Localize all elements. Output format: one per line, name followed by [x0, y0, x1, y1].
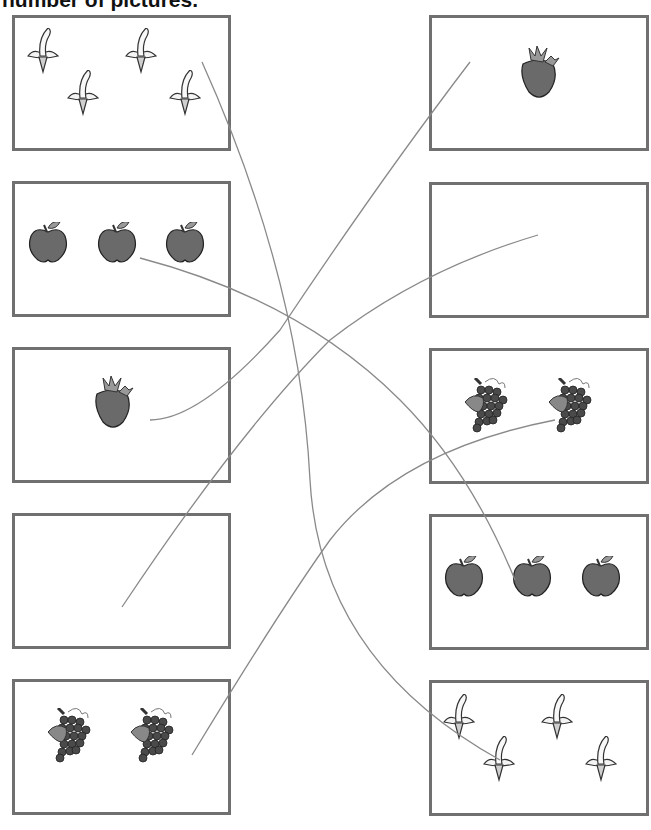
banana-icon [166, 70, 206, 118]
banana-icon [122, 28, 162, 76]
strawberry-icon [93, 376, 139, 432]
right-box-empty[interactable] [429, 182, 649, 318]
banana-icon [582, 736, 622, 784]
right-box-grapes[interactable] [429, 348, 649, 484]
banana-icon [64, 70, 104, 118]
banana-icon [440, 694, 480, 742]
banana-icon [24, 28, 64, 76]
apple-icon [581, 556, 625, 602]
banana-icon [538, 694, 578, 742]
apple-icon [512, 556, 556, 602]
banana-icon [480, 736, 520, 784]
grapes-icon [48, 708, 92, 764]
apple-icon [28, 222, 72, 268]
apple-icon [97, 222, 141, 268]
left-box-grapes[interactable] [12, 679, 231, 815]
instruction-text: number of pictures. [2, 0, 198, 12]
strawberry-icon [519, 46, 565, 102]
grapes-icon [465, 378, 509, 434]
grapes-icon [131, 708, 175, 764]
grapes-icon [549, 378, 593, 434]
apple-icon [165, 222, 209, 268]
left-box-empty[interactable] [12, 513, 231, 649]
apple-icon [444, 556, 488, 602]
